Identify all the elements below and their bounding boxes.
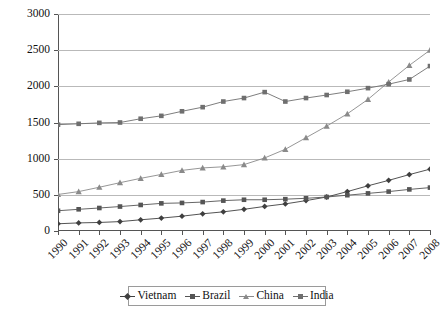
data-point-marker xyxy=(386,189,391,194)
legend-item-vietnam[interactable]: Vietnam xyxy=(120,290,176,302)
data-point-marker xyxy=(324,195,329,200)
y-axis-tick-label: 2500 xyxy=(2,44,50,56)
data-point-marker xyxy=(242,197,247,202)
data-point-marker xyxy=(428,64,430,69)
data-point-marker xyxy=(58,122,60,127)
data-point-marker xyxy=(406,172,412,178)
data-point-marker xyxy=(366,191,371,196)
series-line xyxy=(58,169,430,224)
legend-marker-triangle-icon xyxy=(239,292,254,301)
line-chart: 050010001500200025003000 199019911992199… xyxy=(0,0,446,320)
data-point-marker xyxy=(76,207,81,212)
data-point-marker xyxy=(179,213,185,219)
data-point-marker xyxy=(159,201,164,206)
data-point-marker xyxy=(262,197,267,202)
legend-label: China xyxy=(256,290,283,302)
y-axis-tick-label: 0 xyxy=(2,225,50,237)
legend-marker-square-icon xyxy=(185,292,200,301)
x-tick-mark xyxy=(430,230,431,235)
data-point-marker xyxy=(76,220,82,226)
y-axis-tick-label: 1500 xyxy=(2,117,50,129)
legend-item-brazil[interactable]: Brazil xyxy=(185,290,230,302)
data-point-marker xyxy=(366,86,371,91)
data-point-marker xyxy=(180,201,185,206)
data-point-marker xyxy=(138,217,144,223)
series-china xyxy=(58,47,430,197)
legend-item-china[interactable]: China xyxy=(239,290,283,302)
data-point-marker xyxy=(58,208,60,213)
data-point-marker xyxy=(159,114,164,119)
data-point-marker xyxy=(345,89,350,94)
data-point-marker xyxy=(304,96,309,101)
data-point-marker xyxy=(427,166,430,172)
data-point-marker xyxy=(324,123,330,129)
data-point-marker xyxy=(324,93,329,98)
data-point-marker xyxy=(241,206,247,212)
y-axis-tick-label: 1000 xyxy=(2,153,50,165)
data-series-layer xyxy=(58,14,430,231)
data-point-marker xyxy=(138,116,143,121)
data-point-marker xyxy=(282,146,288,152)
data-point-marker xyxy=(386,82,391,87)
data-point-marker xyxy=(138,203,143,208)
data-point-marker xyxy=(262,204,268,210)
legend-label: Brazil xyxy=(202,290,230,302)
data-point-marker xyxy=(97,121,102,126)
data-point-marker xyxy=(242,96,247,101)
data-point-marker xyxy=(200,211,206,217)
y-axis-tick-label: 2000 xyxy=(2,80,50,92)
data-point-marker xyxy=(304,196,309,201)
data-point-marker xyxy=(283,197,288,202)
data-point-marker xyxy=(282,201,288,207)
y-axis-tick-label: 500 xyxy=(2,189,50,201)
data-point-marker xyxy=(158,215,164,221)
legend-marker-diamond-icon xyxy=(120,292,135,301)
data-point-marker xyxy=(407,77,412,82)
series-line xyxy=(58,66,430,125)
data-point-marker xyxy=(221,198,226,203)
data-point-marker xyxy=(118,204,123,209)
data-point-marker xyxy=(180,109,185,114)
data-point-marker xyxy=(262,90,267,95)
data-point-marker xyxy=(118,120,123,125)
data-point-marker xyxy=(303,135,309,141)
data-point-marker xyxy=(200,200,205,205)
legend-label: India xyxy=(310,290,334,302)
data-point-marker xyxy=(262,155,268,161)
data-point-marker xyxy=(407,187,412,192)
data-point-marker xyxy=(220,209,226,215)
data-point-marker xyxy=(117,219,123,225)
data-point-marker xyxy=(58,221,61,227)
data-point-marker xyxy=(97,206,102,211)
legend-item-india[interactable]: India xyxy=(293,290,334,302)
y-axis-tick-label: 3000 xyxy=(2,8,50,20)
data-point-marker xyxy=(221,99,226,104)
data-point-marker xyxy=(344,111,350,117)
data-point-marker xyxy=(345,193,350,198)
series-vietnam xyxy=(58,166,430,226)
data-point-marker xyxy=(76,122,81,127)
data-point-marker xyxy=(200,105,205,110)
data-point-marker xyxy=(428,185,430,190)
series-india xyxy=(58,64,430,127)
data-point-marker xyxy=(283,99,288,104)
legend-label: Vietnam xyxy=(137,290,176,302)
chart-legend: VietnamBrazilChinaIndia xyxy=(128,286,326,306)
data-point-marker xyxy=(406,62,412,68)
data-point-marker xyxy=(365,183,371,189)
data-point-marker xyxy=(96,220,102,226)
legend-marker-square-icon xyxy=(293,292,308,301)
data-point-marker xyxy=(386,177,392,183)
